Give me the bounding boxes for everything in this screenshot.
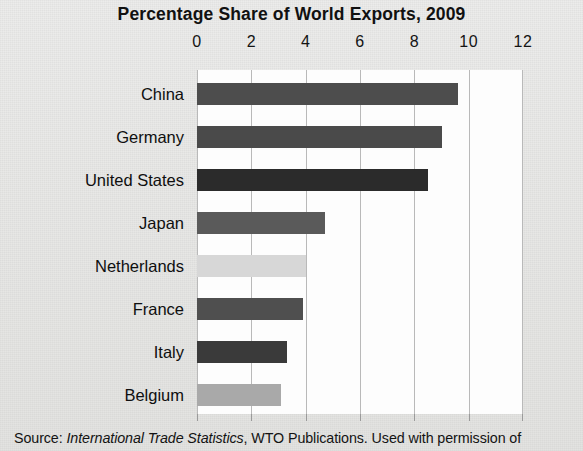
x-axis-tick-label: 8 xyxy=(410,33,419,51)
y-axis-category-label: Netherlands xyxy=(95,255,184,277)
x-axis-tickmark xyxy=(306,414,307,421)
x-axis-tick-label: 12 xyxy=(514,33,533,51)
source-caption: Source: International Trade Statistics, … xyxy=(14,430,583,446)
bar xyxy=(197,341,287,363)
gridline xyxy=(522,70,523,414)
x-axis-tickmark xyxy=(469,414,470,421)
y-axis-category-label: Italy xyxy=(154,341,184,363)
x-axis-tick-label: 2 xyxy=(247,33,256,51)
y-axis-category-label: Germany xyxy=(116,126,184,148)
gridline xyxy=(414,70,415,414)
source-publication: International Trade Statistics xyxy=(66,430,243,446)
y-axis-category-label: United States xyxy=(85,169,184,191)
y-axis-category-label: Belgium xyxy=(124,384,184,406)
x-axis-tickmark xyxy=(197,414,198,421)
page-title: Percentage Share of World Exports, 2009 xyxy=(0,4,583,25)
y-axis-category-label: France xyxy=(133,298,184,320)
y-axis-category-labels: ChinaGermanyUnited StatesJapanNetherland… xyxy=(0,70,190,414)
bar xyxy=(197,83,458,105)
bar xyxy=(197,169,428,191)
x-axis-tick-label: 4 xyxy=(301,33,310,51)
x-axis-tick-label: 10 xyxy=(459,33,478,51)
gridline xyxy=(469,70,470,414)
plot-area xyxy=(197,70,523,414)
x-axis-tickmark xyxy=(414,414,415,421)
x-axis-tickmark xyxy=(522,414,523,421)
bar xyxy=(197,126,442,148)
gridline xyxy=(360,70,361,414)
bar xyxy=(197,298,303,320)
x-axis-tick-label: 6 xyxy=(355,33,364,51)
y-axis-category-label: Japan xyxy=(139,212,184,234)
x-axis-tickmark xyxy=(251,414,252,421)
x-axis-tick-labels: 024681012 xyxy=(0,33,583,55)
gridline xyxy=(306,70,307,414)
bar xyxy=(197,255,306,277)
source-suffix: , WTO Publications. Used with permission… xyxy=(244,430,522,446)
bar xyxy=(197,212,325,234)
bar xyxy=(197,384,281,406)
source-prefix: Source: xyxy=(14,430,63,446)
x-axis-tickmark xyxy=(360,414,361,421)
y-axis-category-label: China xyxy=(141,83,184,105)
x-axis-tick-label: 0 xyxy=(192,33,201,51)
